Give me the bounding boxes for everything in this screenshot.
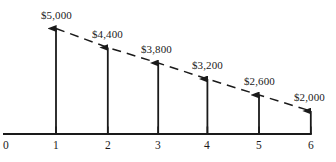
value-label-period-3: $3,800 [141,44,172,55]
x-tick-label-2: 2 [102,140,114,152]
x-tick-label-4: 4 [201,140,213,152]
chart-canvas [0,0,336,162]
x-tick-label-0: 0 [0,140,12,152]
value-label-period-4: $3,200 [192,60,223,71]
x-tick-label-5: 5 [253,140,265,152]
value-label-period-6: $2,000 [294,92,325,103]
x-tick-label-3: 3 [152,140,164,152]
value-label-period-2: $4,400 [92,29,123,40]
x-tick-label-1: 1 [50,140,62,152]
x-tick-label-6: 6 [305,140,317,152]
x-axis-ticks [56,127,311,135]
value-label-period-1: $5,000 [41,10,72,21]
trend-line-dashed [56,29,311,112]
value-label-period-5: $2,600 [244,76,275,87]
cash-flow-diagram: $5,000 $4,400 $3,800 $3,200 $2,600 $2,00… [0,0,336,162]
